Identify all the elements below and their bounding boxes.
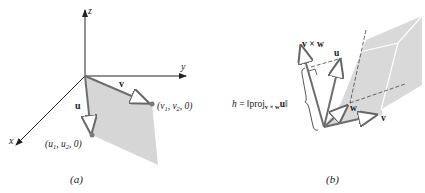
v-label: v	[381, 113, 386, 123]
v-point-label: (v1, v2, 0)	[157, 101, 193, 112]
u-point-label: (u1, u2, 0)	[45, 139, 82, 150]
caption-a: (a)	[70, 173, 83, 186]
u-label: u	[75, 100, 81, 111]
parallelogram	[85, 76, 158, 165]
u-label: u	[334, 48, 340, 58]
panel-b: v × w u w v h = ‖projv × wu‖ (b)	[232, 16, 422, 186]
height-formula: h = ‖projv × wu‖	[232, 99, 288, 110]
x-label: x	[8, 135, 14, 146]
w-label: w	[350, 103, 357, 113]
caption-b: (b)	[326, 173, 339, 186]
projection-line	[311, 58, 342, 67]
z-label: z	[87, 5, 92, 16]
panel-a: z y x u v (v1, v2, 0) (u1, u2, 0) (a)	[8, 5, 193, 186]
v-label: v	[119, 78, 124, 89]
y-label: y	[180, 61, 186, 72]
cross-label: v × w	[302, 39, 324, 49]
point-u	[90, 133, 95, 138]
figure: z y x u v (v1, v2, 0) (u1, u2, 0) (a) v …	[0, 0, 425, 193]
right-angle-mark	[309, 69, 317, 75]
point-v	[150, 102, 155, 107]
